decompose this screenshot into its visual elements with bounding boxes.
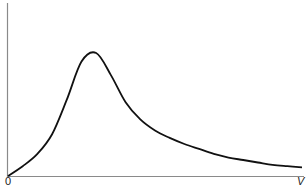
origin-label: 0 [5, 176, 11, 187]
x-axis-label: V [297, 176, 304, 187]
chart-canvas [0, 0, 307, 189]
distribution-curve [8, 52, 302, 176]
